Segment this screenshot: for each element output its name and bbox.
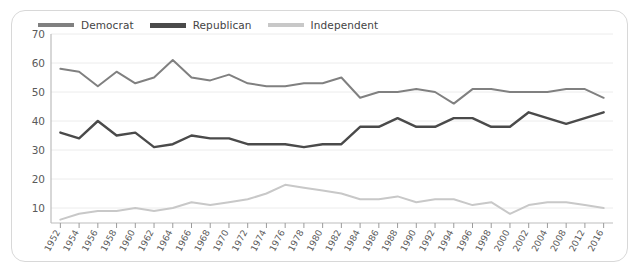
x-axis-tick-label-1962: 1962: [136, 228, 156, 253]
x-axis-tick-label-1960: 1960: [117, 228, 137, 253]
line-chart-svg: 1020304050607019521954195619581960196219…: [12, 11, 629, 263]
x-axis-tick-label-1994: 1994: [436, 228, 456, 253]
x-axis-tick-label-2008: 2008: [548, 228, 568, 253]
x-axis-tick-label-1968: 1968: [192, 228, 212, 253]
x-axis-tick-label-1966: 1966: [174, 228, 194, 253]
x-axis-tick-label-1974: 1974: [249, 228, 269, 253]
x-axis-tick-label-1976: 1976: [267, 228, 287, 253]
series-line-democrat[interactable]: [60, 60, 603, 104]
y-axis-tick-label-40: 40: [32, 115, 45, 127]
x-axis-tick-label-2004: 2004: [530, 228, 550, 253]
x-axis-tick-label-1982: 1982: [324, 228, 344, 253]
x-axis-tick-label-1984: 1984: [342, 228, 362, 253]
x-axis-tick-label-2000: 2000: [492, 228, 512, 253]
x-axis-tick-label-1980: 1980: [305, 228, 325, 253]
series-line-independent[interactable]: [60, 185, 603, 220]
series-line-republican[interactable]: [60, 112, 603, 147]
y-axis-tick-label-30: 30: [32, 144, 45, 156]
x-axis-tick-label-1964: 1964: [155, 228, 175, 253]
y-axis-tick-label-60: 60: [32, 57, 45, 69]
x-axis-tick-label-1972: 1972: [230, 228, 250, 253]
x-axis-tick-label-2016: 2016: [586, 228, 606, 253]
x-axis-tick-label-2012: 2012: [567, 228, 587, 253]
y-axis-tick-label-50: 50: [32, 86, 45, 98]
x-axis-tick-label-1996: 1996: [455, 228, 475, 253]
x-axis-tick-label-1958: 1958: [99, 228, 119, 253]
x-axis-tick-label-1956: 1956: [80, 228, 100, 253]
x-axis-tick-label-1954: 1954: [61, 228, 81, 253]
y-axis-tick-label-70: 70: [32, 28, 45, 40]
x-axis-tick-label-1986: 1986: [361, 228, 381, 253]
x-axis-tick-label-1990: 1990: [398, 228, 418, 253]
x-axis-tick-label-1978: 1978: [286, 228, 306, 253]
x-axis-tick-label-1992: 1992: [417, 228, 437, 253]
chart-card: Democrat Republican Independent 10203040…: [11, 10, 628, 262]
x-axis-tick-label-1970: 1970: [211, 228, 231, 253]
y-axis-tick-label-20: 20: [32, 173, 45, 185]
x-axis-tick-label-2002: 2002: [511, 228, 531, 253]
x-axis-tick-label-1998: 1998: [473, 228, 493, 253]
x-axis-tick-label-1988: 1988: [380, 228, 400, 253]
y-axis-tick-label-10: 10: [32, 202, 45, 214]
plot-area: 1020304050607019521954195619581960196219…: [12, 11, 629, 263]
x-axis-tick-label-1952: 1952: [43, 228, 63, 253]
